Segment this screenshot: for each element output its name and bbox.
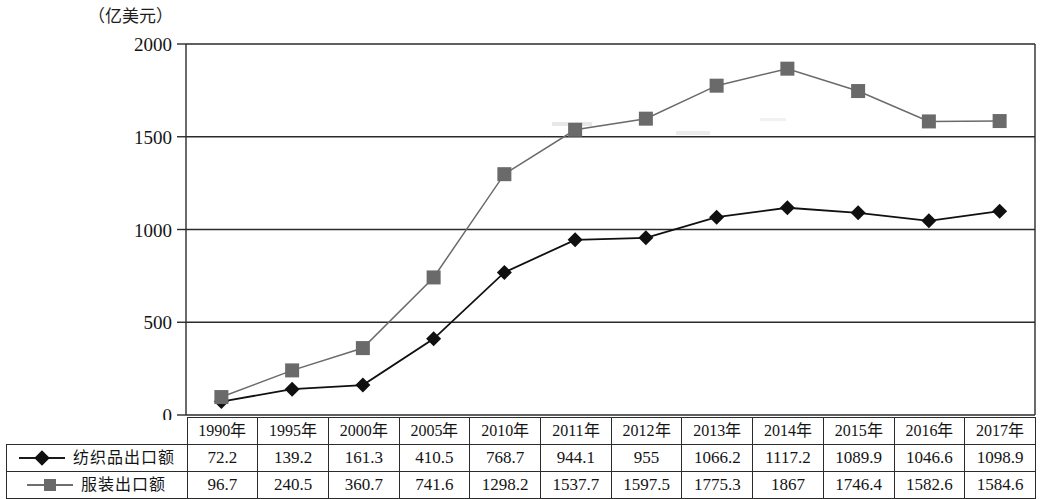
ytick-label-1500: 1500 <box>134 127 172 148</box>
table-header-2014年: 2014年 <box>753 418 824 445</box>
table-header-2000年: 2000年 <box>328 418 399 445</box>
data-point-marker[interactable] <box>992 204 1007 219</box>
data-point-marker[interactable] <box>851 84 865 98</box>
data-point-marker[interactable] <box>921 213 936 228</box>
table-cell: 1046.6 <box>894 445 965 472</box>
data-point-marker[interactable] <box>568 123 582 137</box>
legend-line-2 <box>27 484 73 486</box>
table-header-2016年: 2016年 <box>894 418 965 445</box>
legend-cell-1: 纺织品出口额 <box>7 445 188 472</box>
table-cell: 1089.9 <box>823 445 894 472</box>
table-cell: 1098.9 <box>965 445 1036 472</box>
table-header-2005年: 2005年 <box>399 418 470 445</box>
diamond-marker <box>34 450 50 466</box>
table-header-1995年: 1995年 <box>258 418 329 445</box>
data-table: 1990年1995年2000年2005年2010年2011年2012年2013年… <box>6 417 1036 499</box>
legend-cell-2: 服装出口额 <box>7 472 188 499</box>
table-cell: 1746.4 <box>823 472 894 499</box>
data-point-marker[interactable] <box>639 112 653 126</box>
table-header-2017年: 2017年 <box>965 418 1036 445</box>
data-point-marker[interactable] <box>427 270 441 284</box>
data-point-marker[interactable] <box>568 232 583 247</box>
data-point-marker[interactable] <box>285 382 300 397</box>
table-cell: 1584.6 <box>965 472 1036 499</box>
table-header-2011年: 2011年 <box>541 418 612 445</box>
table-cell: 1537.7 <box>541 472 612 499</box>
legend-label-2: 服装出口额 <box>81 472 166 498</box>
data-point-marker[interactable] <box>638 230 653 245</box>
table-cell: 944.1 <box>541 445 612 472</box>
data-point-marker[interactable] <box>709 210 724 225</box>
table-cell: 1117.2 <box>753 445 824 472</box>
table-cell: 741.6 <box>399 472 470 499</box>
ytick-label-2000: 2000 <box>134 34 172 55</box>
table-cell: 360.7 <box>328 472 399 499</box>
ytick-label-500: 500 <box>144 312 173 333</box>
table-cell: 955 <box>611 445 682 472</box>
table-cell: 139.2 <box>258 445 329 472</box>
ytick-label-1000: 1000 <box>134 220 172 241</box>
scan-artifact-1 <box>676 131 710 135</box>
table-header-2012年: 2012年 <box>611 418 682 445</box>
legend-label-1: 纺织品出口额 <box>73 445 175 471</box>
table-header-2015年: 2015年 <box>823 418 894 445</box>
table-cell: 161.3 <box>328 445 399 472</box>
table-cell: 72.2 <box>187 445 258 472</box>
data-point-marker[interactable] <box>356 341 370 355</box>
table-cell: 1867 <box>753 472 824 499</box>
line-chart: 2000150010005000 <box>0 0 1042 420</box>
table-header-2010年: 2010年 <box>470 418 541 445</box>
table-corner-cell <box>7 418 188 445</box>
table-cell: 1582.6 <box>894 472 965 499</box>
table-cell: 768.7 <box>470 445 541 472</box>
table-cell: 240.5 <box>258 472 329 499</box>
square-marker <box>44 479 56 491</box>
table-cell: 1597.5 <box>611 472 682 499</box>
scan-artifact-2 <box>760 118 786 121</box>
data-point-marker[interactable] <box>497 167 511 181</box>
table-cell: 1775.3 <box>682 472 753 499</box>
series-line-2 <box>221 69 999 397</box>
table-cell: 1066.2 <box>682 445 753 472</box>
data-point-marker[interactable] <box>214 390 228 404</box>
table-header-1990年: 1990年 <box>187 418 258 445</box>
chart-canvas: 2000150010005000 <box>0 0 1042 420</box>
data-point-marker[interactable] <box>710 79 724 93</box>
legend-line-1 <box>19 457 65 459</box>
table-cell: 96.7 <box>187 472 258 499</box>
data-point-marker[interactable] <box>355 378 370 393</box>
data-point-marker[interactable] <box>993 114 1007 128</box>
table-cell: 1298.2 <box>470 472 541 499</box>
table-header-row: 1990年1995年2000年2005年2010年2011年2012年2013年… <box>7 418 1036 445</box>
data-point-marker[interactable] <box>285 363 299 377</box>
data-point-marker[interactable] <box>922 114 936 128</box>
table-header-2013年: 2013年 <box>682 418 753 445</box>
table-cell: 410.5 <box>399 445 470 472</box>
series-line-1 <box>221 208 999 402</box>
data-point-marker[interactable] <box>780 200 795 215</box>
table-row: 服装出口额96.7240.5360.7741.61298.21537.71597… <box>7 472 1036 499</box>
data-point-marker[interactable] <box>780 62 794 76</box>
data-point-marker[interactable] <box>851 205 866 220</box>
table-row: 纺织品出口额72.2139.2161.3410.5768.7944.195510… <box>7 445 1036 472</box>
